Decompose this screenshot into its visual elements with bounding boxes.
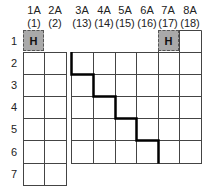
hydrogen-cell-group-7a: H (158, 30, 179, 51)
left-block-grid (24, 53, 67, 186)
hydrogen-symbol: H (30, 35, 38, 47)
right-block-grid (72, 31, 202, 164)
hydrogen-symbol: H (165, 35, 173, 47)
hydrogen-cell-group-1a: H (23, 30, 44, 51)
